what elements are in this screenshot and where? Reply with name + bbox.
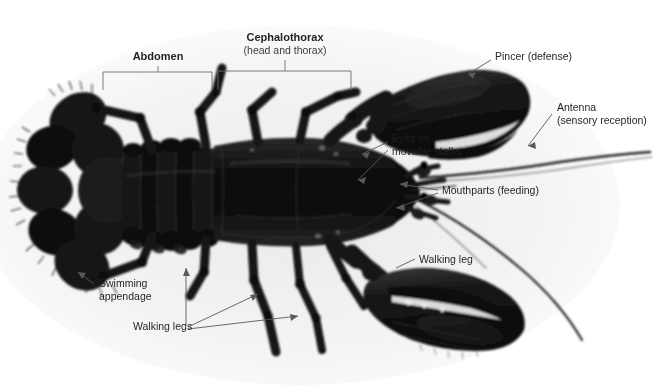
label-eyes: Eyes on bbox=[392, 132, 430, 145]
label-cephalothorax: Cephalothorax bbox=[246, 31, 323, 44]
abdomen-segments bbox=[122, 138, 223, 251]
label-swimming-appendage-sub: appendage bbox=[99, 290, 152, 303]
label-pincer: Pincer (defense) bbox=[495, 50, 572, 63]
label-mouthparts: Mouthparts (feeding) bbox=[442, 184, 539, 197]
label-antenna-sub: (sensory reception) bbox=[557, 114, 647, 127]
label-cephalothorax-sub: (head and thorax) bbox=[244, 44, 327, 57]
lobster-anatomy-figure: Abdomen Cephalothorax (head and thorax) … bbox=[0, 0, 658, 385]
label-swimming-appendage: Swimming bbox=[99, 277, 147, 290]
label-walking-legs: Walking legs bbox=[133, 320, 192, 333]
label-walking-leg: Walking leg bbox=[419, 253, 473, 266]
label-abdomen: Abdomen bbox=[133, 50, 184, 63]
label-antenna: Antenna bbox=[557, 101, 596, 114]
label-eyes-sub: movable stalks bbox=[392, 145, 461, 158]
